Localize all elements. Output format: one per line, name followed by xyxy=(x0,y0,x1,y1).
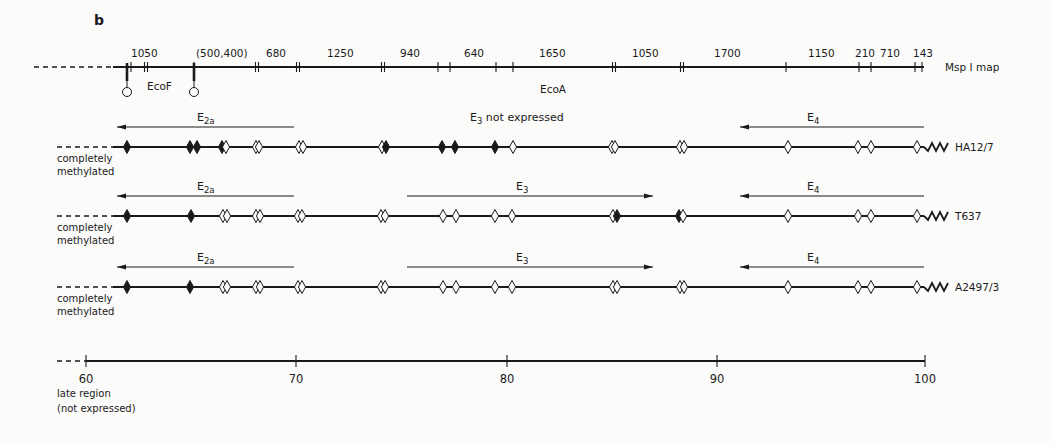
fragment-size-label: 143 xyxy=(913,47,933,59)
arrowhead-icon xyxy=(117,125,126,130)
methylation-map-diagram: b 1050(500,400)6801250940640165010501700… xyxy=(0,0,1053,442)
gene-label: E4 xyxy=(807,180,819,195)
row-a24973: A2497/3completelymethylatedE2aE3E4 xyxy=(57,251,999,317)
fragment-size-label: 1700 xyxy=(714,47,741,59)
not-expressed-label: (not expressed) xyxy=(57,403,136,414)
unmethylated-site-icon xyxy=(854,210,861,223)
fragment-size-label: 1050 xyxy=(632,47,659,59)
methylation-note: methylated xyxy=(57,235,114,246)
cell-line-rows: HA12/7completelymethylatedE2aE4E3 not ex… xyxy=(57,111,999,317)
fragment-size-label: 1150 xyxy=(808,47,835,59)
late-region-label: late region xyxy=(57,388,111,399)
gene-label: E3 not expressed xyxy=(470,111,564,126)
gene-label: E2a xyxy=(197,180,215,195)
axis-tick-label: 70 xyxy=(289,372,304,386)
unmethylated-site-icon xyxy=(867,210,874,223)
arrowhead-icon xyxy=(644,194,653,199)
fragment-size-label: 680 xyxy=(266,47,286,59)
ecof-site-circle-icon xyxy=(123,88,132,97)
ecof-label: EcoF xyxy=(147,80,172,92)
gene-label: E3 xyxy=(516,180,528,195)
methylated-site-icon xyxy=(438,141,445,154)
methylation-note: methylated xyxy=(57,306,114,317)
fragment-size-label: 210 xyxy=(855,47,875,59)
unmethylated-site-icon xyxy=(439,210,446,223)
arrowhead-icon xyxy=(740,265,749,270)
unmethylated-site-icon xyxy=(784,141,791,154)
unmethylated-site-icon xyxy=(854,281,861,294)
unmethylated-site-icon xyxy=(913,141,920,154)
methylation-note: completely xyxy=(57,153,112,164)
methylation-note: completely xyxy=(57,222,112,233)
unmethylated-site-icon xyxy=(784,281,791,294)
methylated-site-icon xyxy=(123,281,130,294)
unmethylated-site-icon xyxy=(452,210,459,223)
arrowhead-icon xyxy=(740,125,749,130)
gene-label: E2a xyxy=(197,251,215,266)
cell-line-label: T637 xyxy=(954,210,981,222)
arrowhead-icon xyxy=(117,265,126,270)
row-t637: T637completelymethylatedE2aE3E4 xyxy=(57,180,981,246)
unmethylated-site-icon xyxy=(491,281,498,294)
unmethylated-site-icon xyxy=(491,210,498,223)
unmethylated-site-icon xyxy=(867,141,874,154)
cellular-dna-junction-icon xyxy=(924,143,948,151)
cellular-dna-junction-icon xyxy=(924,212,948,220)
arrowhead-icon xyxy=(644,265,653,270)
ecof-site-circle-icon xyxy=(190,88,199,97)
methylated-site-icon xyxy=(451,141,458,154)
fragment-size-label: 710 xyxy=(880,47,900,59)
gene-label: E4 xyxy=(807,251,819,266)
unmethylated-site-icon xyxy=(508,281,515,294)
methylated-site-icon xyxy=(123,141,130,154)
panel-label: b xyxy=(94,12,104,28)
gene-label: E4 xyxy=(807,111,819,126)
unmethylated-site-icon xyxy=(867,281,874,294)
fragment-size-label: 940 xyxy=(400,47,420,59)
unmethylated-site-icon xyxy=(784,210,791,223)
methylation-note: methylated xyxy=(57,166,114,177)
fragment-size-label: (500,400) xyxy=(196,47,248,59)
arrowhead-icon xyxy=(117,194,126,199)
msp-map-label: Msp I map xyxy=(945,61,1000,73)
fragment-size-label: 1650 xyxy=(539,47,566,59)
fragment-size-label: 1250 xyxy=(327,47,354,59)
axis-tick-label: 100 xyxy=(914,372,936,386)
methylated-site-icon xyxy=(186,281,193,294)
fragment-size-label: 1050 xyxy=(131,47,158,59)
unmethylated-site-icon xyxy=(913,281,920,294)
unmethylated-site-icon xyxy=(508,210,515,223)
axis-tick-label: 80 xyxy=(500,372,515,386)
arrowhead-icon xyxy=(740,194,749,199)
unmethylated-site-icon xyxy=(913,210,920,223)
gene-label: E2a xyxy=(197,111,215,126)
gene-label: E3 xyxy=(516,251,528,266)
unmethylated-site-icon xyxy=(452,281,459,294)
row-ha127: HA12/7completelymethylatedE2aE4E3 not ex… xyxy=(57,111,994,177)
unmethylated-site-icon xyxy=(439,281,446,294)
methylated-site-icon xyxy=(123,210,130,223)
cellular-dna-junction-icon xyxy=(924,283,948,291)
unmethylated-site-icon xyxy=(854,141,861,154)
fragment-size-label: 640 xyxy=(464,47,484,59)
axis-tick-label: 60 xyxy=(79,372,94,386)
ecoa-label: EcoA xyxy=(540,83,567,95)
methylation-note: completely xyxy=(57,293,112,304)
axis-tick-label: 90 xyxy=(710,372,725,386)
methylated-site-icon xyxy=(193,141,200,154)
cell-line-label: HA12/7 xyxy=(955,141,994,153)
genome-position-axis: 60708090100 xyxy=(57,355,936,386)
methylated-site-icon xyxy=(186,141,193,154)
unmethylated-site-icon xyxy=(509,141,516,154)
methylated-site-icon xyxy=(187,210,194,223)
methylated-site-icon xyxy=(491,141,498,154)
cell-line-label: A2497/3 xyxy=(955,281,999,293)
